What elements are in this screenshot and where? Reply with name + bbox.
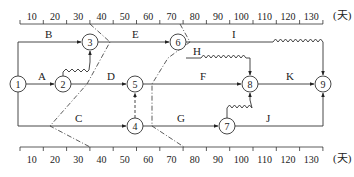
label-i: I bbox=[232, 28, 236, 40]
bottom-scale-labels: 102030405060708090100110120130 bbox=[27, 154, 319, 165]
bottom-tick-label: 20 bbox=[50, 154, 60, 165]
top-tick-label: 50 bbox=[120, 11, 130, 22]
label-f: F bbox=[200, 70, 206, 82]
label-a: A bbox=[38, 70, 46, 82]
node-labels: 1 2 3 4 5 6 7 8 9 bbox=[16, 37, 326, 132]
activity-j-arrow bbox=[235, 93, 323, 126]
bottom-tick-label: 120 bbox=[280, 154, 295, 165]
top-tick-label: 40 bbox=[97, 11, 107, 22]
top-tick-label: 120 bbox=[280, 11, 295, 22]
top-unit-label: (天) bbox=[333, 9, 352, 22]
svg-text:1: 1 bbox=[16, 79, 21, 90]
top-tick-label: 110 bbox=[257, 11, 272, 22]
bottom-tick-label: 90 bbox=[213, 154, 223, 165]
top-tick-label: 130 bbox=[304, 11, 319, 22]
network-diagram: 102030405060708090100110120130 (天) 10203… bbox=[0, 0, 354, 177]
bottom-tick-label: 10 bbox=[27, 154, 37, 165]
top-tick-label: 100 bbox=[234, 11, 249, 22]
top-tick-label: 70 bbox=[166, 11, 176, 22]
svg-text:2: 2 bbox=[61, 79, 66, 90]
label-k: K bbox=[286, 70, 294, 82]
free-float-7-8 bbox=[227, 100, 252, 118]
bottom-unit-label: (天) bbox=[333, 152, 352, 165]
top-tick-label: 20 bbox=[50, 11, 60, 22]
bottom-tick-label: 50 bbox=[120, 154, 130, 165]
top-scale-labels: 102030405060708090100110120130 bbox=[27, 11, 319, 22]
label-e: E bbox=[132, 28, 139, 40]
label-b: B bbox=[45, 28, 52, 40]
bottom-tick-label: 60 bbox=[143, 154, 153, 165]
svg-text:3: 3 bbox=[88, 37, 93, 48]
label-j: J bbox=[266, 112, 271, 124]
top-tick-label: 90 bbox=[213, 11, 223, 22]
free-float-2-3 bbox=[63, 62, 90, 76]
svg-text:4: 4 bbox=[133, 121, 138, 132]
svg-text:9: 9 bbox=[321, 79, 326, 90]
activity-h-arrow bbox=[186, 55, 250, 75]
svg-text:5: 5 bbox=[133, 79, 138, 90]
svg-text:7: 7 bbox=[225, 121, 230, 132]
bottom-tick-label: 30 bbox=[73, 154, 83, 165]
label-g: G bbox=[177, 112, 185, 124]
bottom-tick-label: 40 bbox=[97, 154, 107, 165]
bottom-tick-label: 110 bbox=[257, 154, 272, 165]
svg-text:6: 6 bbox=[176, 37, 181, 48]
top-tick-label: 60 bbox=[143, 11, 153, 22]
bottom-tick-label: 70 bbox=[166, 154, 176, 165]
bottom-tick-label: 100 bbox=[234, 154, 249, 165]
label-h: H bbox=[193, 45, 201, 57]
activity-c-arrow bbox=[18, 92, 126, 126]
top-tick-label: 80 bbox=[190, 11, 200, 22]
label-c: C bbox=[75, 112, 82, 124]
activity-b-arrow bbox=[18, 42, 81, 76]
bottom-tick-label: 80 bbox=[190, 154, 200, 165]
label-d: D bbox=[107, 70, 115, 82]
top-tick-label: 30 bbox=[73, 11, 83, 22]
top-tick-label: 10 bbox=[27, 11, 37, 22]
bottom-time-scale bbox=[20, 147, 323, 151]
bottom-tick-label: 130 bbox=[304, 154, 319, 165]
svg-text:8: 8 bbox=[248, 79, 253, 90]
